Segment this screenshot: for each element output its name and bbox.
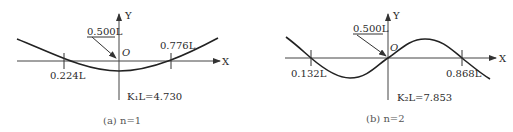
panel-b: Y X O 0.500L 0.132L 0.868L K₂L=7.853 (b)… [285,10,507,124]
k-value-label: K₂L=7.853 [397,92,452,103]
x-axis-label: X [222,56,230,67]
k-value-label: K₁L=4.730 [127,91,182,102]
pointer-label: 0.500L [353,23,389,34]
pointer-arrow [92,37,116,58]
pointer-label: 0.500L [87,26,123,37]
node-right-label: 0.868L [446,68,482,79]
y-axis-label: Y [124,10,132,21]
pointer-arrow [357,35,386,56]
node-right-label: 0.776L [160,40,196,51]
node-left-label: 0.224L [50,70,86,81]
node-left-label: 0.132L [291,68,327,79]
origin-label: O [390,42,398,53]
y-axis-label: Y [392,10,400,21]
caption: (b) n=2 [366,113,405,124]
mode-shape-figure: Y X O 0.500L 0.224L 0.776L K₁L=4.730 (a)… [0,0,513,132]
caption: (a) n=1 [103,115,141,126]
panel-a: Y X O 0.500L 0.224L 0.776L K₁L=4.730 (a)… [17,10,230,126]
origin-label: O [122,47,130,58]
x-axis-label: X [499,53,507,64]
